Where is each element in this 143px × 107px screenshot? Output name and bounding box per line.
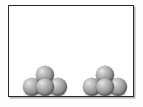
sphere-cluster-right <box>83 64 127 96</box>
scene-root <box>0 0 143 107</box>
sphere-cluster-left <box>23 64 67 96</box>
sphere-right-bottom-center <box>96 78 114 96</box>
sphere-left-bottom-center <box>36 78 54 96</box>
container-interior <box>9 6 133 96</box>
container-box <box>8 5 134 97</box>
